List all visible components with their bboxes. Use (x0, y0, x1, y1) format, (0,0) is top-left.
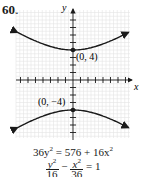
fraction-x: x236 (70, 157, 83, 177)
vertex-bottom-label: (0, −4) (38, 96, 65, 108)
vertex-bottom-point (71, 108, 76, 113)
hyperbola-plot: y x (0, 4) (0, −4) (0, 0, 146, 145)
equation-standard-form: y216 − x236 = 1 (0, 157, 146, 177)
x-axis-label: x (133, 81, 139, 92)
y-axis-label: y (61, 2, 67, 13)
vertex-top-label: (0, 4) (76, 51, 98, 63)
fraction-y: y216 (46, 157, 59, 177)
equation-expanded: 36y2 = 576 + 16x2 (0, 145, 146, 158)
vertex-top-point (71, 48, 76, 53)
